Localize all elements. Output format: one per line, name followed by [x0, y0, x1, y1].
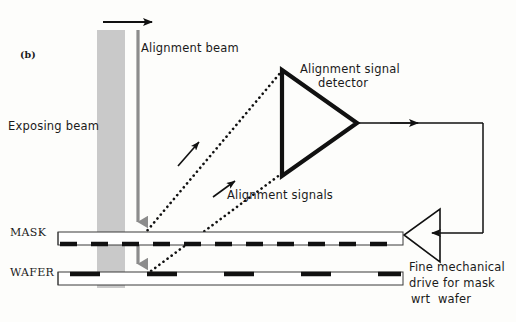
lithography-alignment-diagram: (b) Alignment beam Exposing beam Alignme…: [0, 0, 516, 322]
drive-label-line1: Fine mechanical: [409, 260, 505, 274]
mask-label: MASK: [10, 226, 46, 239]
alignment-beam-label: Alignment beam: [141, 41, 239, 55]
drive-label-line2: drive for mask: [409, 276, 495, 290]
exposing-beam-block: [97, 30, 125, 288]
fine-mechanical-drive-triangle: [404, 209, 440, 262]
exposing-beam-label: Exposing beam: [8, 119, 99, 133]
panel-label: (b): [20, 49, 36, 60]
alignment-signals-label: Alignment signals: [227, 188, 333, 202]
signal-direction-arrow-upper: [178, 142, 199, 166]
drive-label-line3: wrt wafer: [411, 292, 471, 306]
detector-label-line2: detector: [318, 76, 368, 90]
alignment-signal-ray-mask: [141, 72, 281, 238]
wafer-label: WAFER: [10, 266, 54, 279]
detector-label-line1: Alignment signal: [300, 62, 400, 76]
